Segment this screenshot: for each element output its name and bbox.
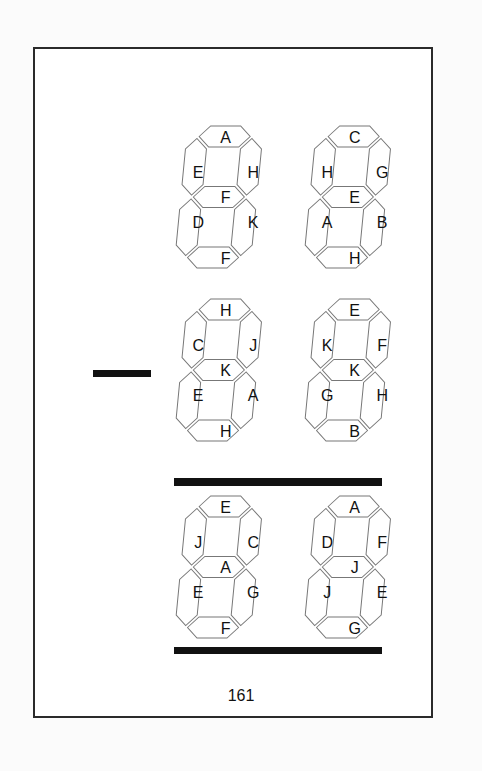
segment-label-upper-left: E bbox=[193, 164, 204, 181]
segment-label-lower-right: B bbox=[377, 214, 388, 231]
segment-label-top: E bbox=[220, 499, 231, 516]
segment-label-lower-left: D bbox=[192, 214, 204, 231]
segment-label-middle: F bbox=[221, 189, 231, 206]
segment-label-lower-right: E bbox=[377, 584, 388, 601]
segment-label-upper-left: H bbox=[321, 164, 333, 181]
segment-bottom bbox=[316, 247, 369, 268]
segment-label-lower-right: A bbox=[248, 387, 259, 404]
segment-middle bbox=[192, 360, 245, 381]
segment-label-top: C bbox=[349, 129, 361, 146]
segment-middle bbox=[321, 557, 374, 578]
segment-label-bottom: H bbox=[349, 250, 361, 267]
segment-label-upper-right: H bbox=[247, 164, 259, 181]
segment-bottom bbox=[187, 420, 240, 441]
digit-r2-c1: HKHCJEA bbox=[174, 299, 269, 441]
segment-label-middle: K bbox=[349, 362, 360, 379]
segment-label-middle: A bbox=[220, 559, 231, 576]
segment-label-lower-left: E bbox=[193, 584, 204, 601]
segment-label-lower-left: J bbox=[323, 584, 331, 601]
digit-grid: AFFEHDKCEHHGABHKHCJEAEKBKFGHEAFJCEGAJGDF… bbox=[0, 0, 482, 771]
segment-label-top: H bbox=[220, 302, 232, 319]
segment-label-lower-left: A bbox=[322, 214, 333, 231]
segment-label-upper-right: F bbox=[377, 337, 387, 354]
segment-label-upper-right: C bbox=[247, 534, 259, 551]
segment-label-upper-left: D bbox=[321, 534, 333, 551]
segment-bottom bbox=[187, 617, 240, 638]
segment-label-upper-right: J bbox=[249, 337, 257, 354]
segment-middle bbox=[321, 187, 374, 208]
segment-label-lower-left: E bbox=[193, 387, 204, 404]
segment-bottom bbox=[187, 247, 240, 268]
segment-label-bottom: B bbox=[349, 423, 360, 440]
digit-r3-c1: EAFJCEG bbox=[174, 496, 270, 638]
segment-label-middle: K bbox=[220, 362, 231, 379]
segment-bottom bbox=[316, 420, 369, 441]
segment-label-bottom: F bbox=[221, 250, 231, 267]
segment-label-lower-right: K bbox=[248, 214, 259, 231]
segment-middle bbox=[321, 360, 374, 381]
segment-label-bottom: H bbox=[220, 423, 232, 440]
segment-middle bbox=[192, 187, 245, 208]
page-number: 161 bbox=[0, 687, 482, 705]
segment-label-upper-left: C bbox=[192, 337, 204, 354]
segment-label-top: E bbox=[349, 302, 360, 319]
segment-label-bottom: F bbox=[221, 620, 231, 637]
segment-label-upper-right: G bbox=[376, 164, 388, 181]
segment-label-upper-left: J bbox=[194, 534, 202, 551]
segment-label-bottom: G bbox=[348, 620, 360, 637]
segment-label-lower-right: H bbox=[376, 387, 388, 404]
digit-r1-c2: CEHHGAB bbox=[303, 126, 398, 268]
segment-label-middle: E bbox=[349, 189, 360, 206]
segment-label-upper-right: F bbox=[377, 534, 387, 551]
segment-label-top: A bbox=[220, 129, 231, 146]
digit-r3-c2: AJGDFJE bbox=[303, 496, 398, 638]
segment-label-lower-right: G bbox=[247, 584, 259, 601]
digit-r1-c1: AFFEHDK bbox=[174, 126, 269, 268]
segment-middle bbox=[192, 557, 245, 578]
segment-label-upper-left: K bbox=[322, 337, 333, 354]
segment-label-top: A bbox=[349, 499, 360, 516]
digit-r2-c2: EKBKFGH bbox=[303, 299, 398, 441]
segment-label-lower-left: G bbox=[321, 387, 333, 404]
segment-label-middle: J bbox=[351, 559, 359, 576]
